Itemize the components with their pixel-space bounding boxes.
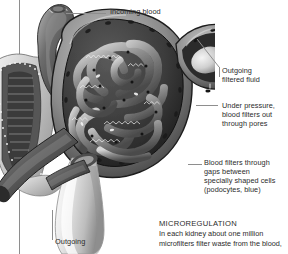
caption-heading: MICROREGULATION <box>159 219 288 228</box>
glomerulus-illustration <box>0 0 215 254</box>
label-outgoing: Outgoing <box>55 237 85 246</box>
caption-body: In each kidney about one million microfi… <box>159 229 288 248</box>
leader-line-under-pressure <box>196 105 218 106</box>
leader-line-incoming-blood <box>66 13 106 14</box>
figure-canvas: Incoming blood Outgoing filtered fluid U… <box>0 0 288 254</box>
microregulation-caption: MICROREGULATION In each kidney about one… <box>159 219 288 248</box>
leader-line-filtrate-pointer <box>196 38 224 70</box>
label-under-pressure: Under pressure, blood filters out throug… <box>222 101 275 128</box>
label-outgoing-filtered-fluid: Outgoing filtered fluid <box>222 66 260 84</box>
leader-line-outgoing <box>52 210 53 240</box>
label-incoming-blood: Incoming blood <box>110 7 161 16</box>
leader-line-blood-filters-gaps <box>188 164 202 165</box>
label-blood-filters-through-gaps: Blood filters through gaps between speci… <box>204 158 275 194</box>
